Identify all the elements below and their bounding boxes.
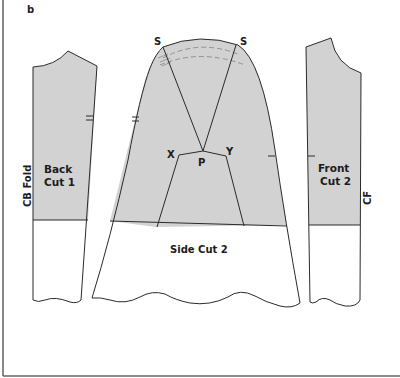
back-piece-shaded bbox=[33, 51, 97, 220]
point-p: P bbox=[198, 157, 205, 168]
front-label-line2: Cut 2 bbox=[320, 175, 351, 187]
back-label-line1: Back bbox=[44, 163, 73, 175]
panel-label: b bbox=[27, 4, 34, 15]
cb-fold-label: CB Fold bbox=[22, 165, 33, 207]
point-x: X bbox=[167, 149, 175, 160]
side-piece: S S X P Y Side Cut 2 bbox=[92, 36, 300, 307]
front-piece: Front Cut 2 CF bbox=[306, 38, 373, 306]
point-y: Y bbox=[225, 146, 234, 157]
front-piece-shaded bbox=[306, 38, 361, 225]
back-piece: Back Cut 1 CB Fold bbox=[22, 51, 97, 303]
back-label-line2: Cut 1 bbox=[44, 176, 75, 188]
point-s-right: S bbox=[240, 36, 247, 47]
point-s-left: S bbox=[154, 36, 161, 47]
side-label: Side Cut 2 bbox=[170, 244, 228, 255]
side-piece-shaded bbox=[110, 39, 287, 227]
pattern-diagram: b Back Cut 1 CB Fold bbox=[0, 0, 400, 378]
front-label-line1: Front bbox=[318, 162, 349, 174]
cf-label: CF bbox=[362, 191, 373, 205]
